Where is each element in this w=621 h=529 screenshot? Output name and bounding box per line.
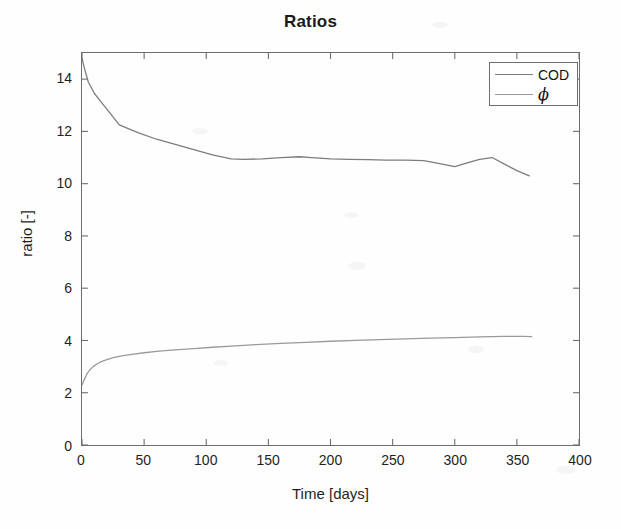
y-tick-marks — [82, 79, 579, 445]
y-tick-label: 2 — [28, 385, 72, 401]
chart-legend: CODϕ — [489, 62, 578, 106]
chart-title: Ratios — [0, 12, 621, 32]
x-tick-label: 150 — [256, 452, 279, 468]
x-tick-label: 250 — [381, 452, 404, 468]
legend-label: ϕ — [538, 87, 549, 103]
x-tick-label: 200 — [319, 452, 342, 468]
series-line-cod — [82, 58, 529, 176]
series-line-ϕ — [82, 336, 532, 385]
legend-line-swatch — [495, 74, 533, 75]
plot-area — [81, 52, 580, 446]
legend-label: COD — [538, 68, 569, 82]
y-axis-label: ratio [-] — [18, 164, 35, 304]
data-series-group — [82, 58, 532, 385]
y-tick-label: 6 — [28, 280, 72, 296]
y-tick-label: 8 — [28, 228, 72, 244]
plot-svg — [82, 53, 579, 445]
legend-entry: COD — [490, 64, 577, 85]
x-tick-label: 100 — [194, 452, 217, 468]
x-tick-label: 400 — [568, 452, 591, 468]
y-tick-label: 10 — [28, 175, 72, 191]
x-tick-marks — [82, 53, 579, 445]
x-tick-label: 0 — [77, 452, 85, 468]
x-tick-label: 300 — [444, 452, 467, 468]
legend-line-swatch — [495, 94, 533, 95]
y-tick-label: 14 — [28, 70, 72, 86]
legend-entry: ϕ — [490, 84, 577, 105]
x-tick-label: 50 — [136, 452, 152, 468]
x-axis-label: Time [days] — [81, 485, 580, 502]
chart-figure: Ratios 050100150200250300350400 02468101… — [0, 0, 621, 529]
x-tick-label: 350 — [506, 452, 529, 468]
y-tick-label: 12 — [28, 123, 72, 139]
y-tick-label: 0 — [28, 438, 72, 454]
y-tick-label: 4 — [28, 333, 72, 349]
